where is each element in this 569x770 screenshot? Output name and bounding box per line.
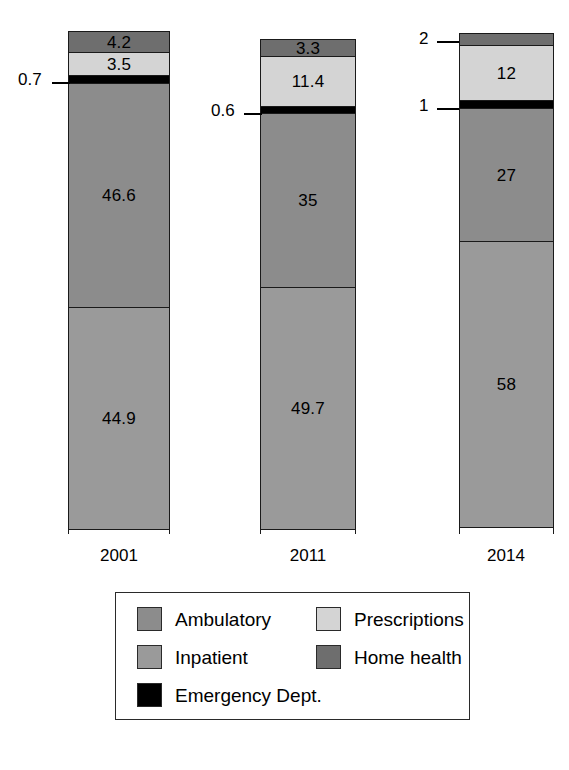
legend-swatch-inpatient: [137, 645, 162, 669]
legend-label: Emergency Dept.: [175, 686, 322, 705]
legend-label: Inpatient: [175, 648, 248, 667]
bar-2014[interactable]: 12 27 58: [459, 33, 554, 534]
legend-swatch-prescriptions: [316, 607, 341, 631]
segment-ambulatory-2011[interactable]: 35: [261, 113, 355, 289]
segment-prescriptions-2014[interactable]: 12: [460, 45, 553, 102]
legend-label: Prescriptions: [354, 610, 464, 629]
segment-prescriptions-2001[interactable]: 3.5: [69, 52, 169, 77]
callout-leader-line: [52, 82, 70, 84]
segment-ambulatory-2001[interactable]: 46.6: [69, 83, 169, 309]
legend-swatch-emergency-dept: [137, 683, 162, 707]
segment-value-label: 12: [497, 65, 516, 82]
segment-inpatient-2014[interactable]: 58: [460, 241, 553, 528]
stacked-bar-chart: 4.2 3.5 46.6 44.9 0.7 3.3: [0, 0, 569, 770]
bar-2011[interactable]: 3.3 11.4 35 49.7: [260, 39, 356, 534]
bar-group-2001: 4.2 3.5 46.6 44.9: [68, 31, 170, 534]
segment-value-label: 11.4: [292, 73, 325, 90]
legend-item-inpatient[interactable]: Inpatient: [137, 645, 248, 669]
bar-group-2014: 12 27 58: [459, 33, 554, 534]
segment-home-health-2001[interactable]: 4.2: [69, 31, 169, 53]
callout-label-emergency-2014: 1: [419, 96, 428, 116]
segment-ambulatory-2014[interactable]: 27: [460, 108, 553, 243]
legend-item-home-health[interactable]: Home health: [316, 645, 462, 669]
segment-value-label: 4.2: [107, 34, 131, 51]
legend: Ambulatory Prescriptions Inpatient Home …: [115, 592, 470, 720]
bar-2001[interactable]: 4.2 3.5 46.6 44.9: [68, 31, 170, 534]
legend-label: Home health: [354, 648, 462, 667]
callout-label-emergency-2001: 0.7: [18, 70, 42, 90]
segment-value-label: 49.7: [291, 400, 325, 417]
callout-label-home-health-2014: 2: [419, 29, 428, 49]
legend-swatch-ambulatory: [137, 607, 162, 631]
callout-leader-line: [437, 41, 459, 43]
axis-tick-label-2014: 2014: [456, 546, 556, 566]
segment-value-label: 58: [497, 376, 516, 393]
callout-leader-line: [437, 108, 459, 110]
segment-value-label: 27: [497, 167, 516, 184]
segment-inpatient-2001[interactable]: 44.9: [69, 307, 169, 530]
axis-tick-label-2011: 2011: [258, 546, 358, 566]
legend-item-emergency-dept[interactable]: Emergency Dept.: [137, 683, 322, 707]
callout-leader-line: [244, 113, 262, 115]
segment-value-label: 35: [298, 192, 317, 209]
segment-home-health-2011[interactable]: 3.3: [261, 39, 355, 57]
segment-prescriptions-2011[interactable]: 11.4: [261, 56, 355, 108]
legend-item-ambulatory[interactable]: Ambulatory: [137, 607, 271, 631]
segment-value-label: 46.6: [102, 187, 136, 204]
segment-inpatient-2011[interactable]: 49.7: [261, 287, 355, 530]
plot-area: 4.2 3.5 46.6 44.9 0.7 3.3: [0, 0, 569, 585]
segment-value-label: 44.9: [102, 410, 136, 427]
legend-item-prescriptions[interactable]: Prescriptions: [316, 607, 464, 631]
segment-value-label: 3.3: [296, 40, 320, 57]
bar-group-2011: 3.3 11.4 35 49.7: [260, 39, 356, 534]
axis-tick-label-2001: 2001: [69, 546, 169, 566]
legend-label: Ambulatory: [175, 610, 271, 629]
segment-value-label: 3.5: [107, 56, 131, 73]
legend-swatch-home-health: [316, 645, 341, 669]
callout-label-emergency-2011: 0.6: [211, 101, 235, 121]
